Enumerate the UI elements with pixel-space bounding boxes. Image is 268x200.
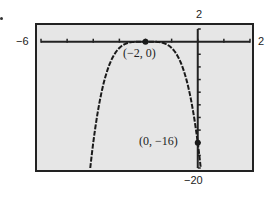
xmin-label: −6 xyxy=(16,35,29,47)
y-intercept-point-label: (0, −16) xyxy=(139,134,178,149)
ymax-label: 2 xyxy=(196,8,202,20)
graph-window xyxy=(0,0,268,200)
y-intercept-point xyxy=(195,140,201,146)
vertex-point xyxy=(143,39,149,45)
xmax-label: 2 xyxy=(258,35,264,47)
ymin-label: −20 xyxy=(184,174,203,186)
vertex-point-label: (−2, 0) xyxy=(123,46,156,61)
